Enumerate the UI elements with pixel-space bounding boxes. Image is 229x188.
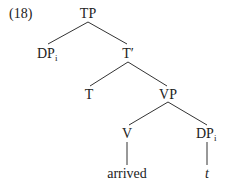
node-dp-spec: DPi [37, 46, 58, 63]
edge-tp-tbar [88, 22, 127, 44]
node-t-head: T [85, 87, 94, 102]
node-dp-spec-subscript: i [55, 53, 58, 63]
edge-tbar-t [90, 62, 128, 86]
edge-vp-v [129, 102, 168, 125]
node-dp-obj-subscript: i [214, 133, 217, 143]
node-dp-obj-label: DP [196, 126, 214, 141]
edge-tbar-vp [128, 62, 167, 86]
example-number: (18) [9, 6, 33, 22]
node-dp-spec-label: DP [37, 46, 55, 61]
syntax-tree: (18) TP DPi T′ T VP V DPi arrived t [0, 0, 229, 188]
leaf-arrived: arrived [107, 166, 147, 181]
node-v: V [122, 126, 132, 141]
node-vp: VP [159, 87, 177, 102]
node-t-bar: T′ [122, 46, 134, 61]
edge-tp-dp [48, 22, 88, 44]
node-dp-obj: DPi [196, 126, 217, 143]
edge-vp-dp [168, 102, 207, 125]
leaf-trace: t [205, 166, 210, 181]
node-tp: TP [80, 6, 97, 21]
